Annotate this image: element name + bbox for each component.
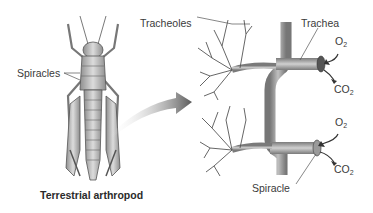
o2-bottom-sub: 2 [343,122,347,129]
spiracles-leader [64,73,80,80]
co2-bottom-base: CO [334,163,350,175]
caption-terrestrial-arthropod: Terrestrial arthropod [40,190,143,201]
o2-top-sub: 2 [343,41,347,48]
label-spiracles: Spiracles [17,68,60,79]
co2-top-base: CO [334,83,350,95]
tracheal-system [197,17,338,184]
label-trachea: Trachea [301,18,339,29]
diagram-canvas [0,0,373,213]
o2-bottom-base: O [335,116,343,128]
label-spiracle: Spiracle [252,183,290,194]
grasshopper-illustration [66,16,120,180]
label-tracheoles: Tracheoles [140,18,192,29]
label-co2-bottom: CO2 [334,164,354,176]
co2-top-sub: 2 [350,89,354,96]
label-o2-top: O2 [335,36,347,48]
o2-top-base: O [335,35,343,47]
label-o2-bottom: O2 [335,117,347,129]
zoom-arrow [110,92,192,138]
co2-bottom-sub: 2 [350,169,354,176]
label-co2-top: CO2 [334,84,354,96]
